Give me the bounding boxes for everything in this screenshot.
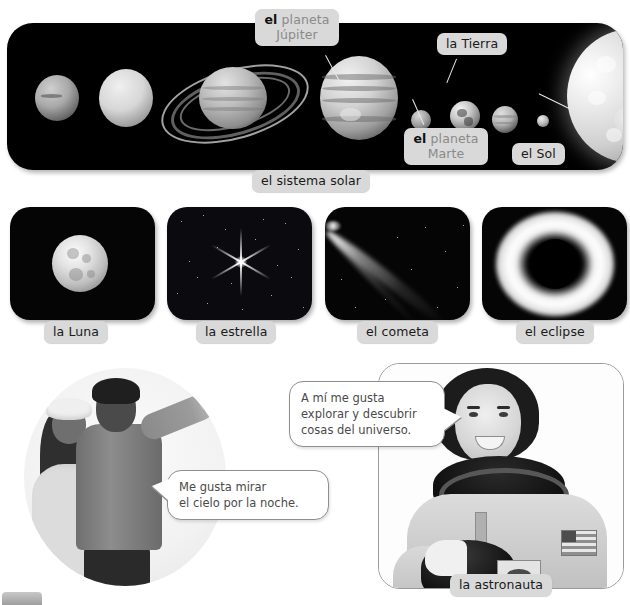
venus-band bbox=[494, 115, 517, 117]
the-sun bbox=[567, 29, 623, 163]
label-article: el bbox=[414, 131, 427, 146]
tile-la-estrella bbox=[167, 207, 312, 320]
star-core bbox=[235, 256, 247, 268]
venus-band bbox=[494, 122, 517, 124]
saturn-band bbox=[202, 107, 265, 111]
caption-text: el sistema solar bbox=[261, 173, 361, 188]
label-text: la Tierra bbox=[446, 36, 498, 51]
earth-continent bbox=[464, 117, 473, 126]
speech-line: cosas del universo. bbox=[301, 422, 433, 438]
tile-el-cometa bbox=[325, 207, 470, 320]
label-noun-line2: Júpiter bbox=[276, 27, 317, 42]
label-text: la astronauta bbox=[459, 577, 543, 592]
saturn-band bbox=[202, 86, 265, 90]
boy-jacket bbox=[76, 424, 162, 550]
astronaut-eyebrow bbox=[467, 406, 480, 409]
speech-bubble-tail bbox=[152, 479, 169, 501]
label-la-tierra: la Tierra bbox=[437, 33, 507, 55]
sun-granule bbox=[588, 91, 606, 106]
jupiter-band bbox=[322, 98, 395, 103]
speech-bubble-tail bbox=[443, 408, 461, 431]
eclipse-icon bbox=[531, 239, 579, 289]
label-noun-line2: Marte bbox=[428, 146, 465, 161]
astronaut-face bbox=[455, 384, 521, 464]
tile-la-luna bbox=[10, 207, 155, 320]
comet-head bbox=[325, 221, 341, 231]
label-planeta-jupiter: el planeta Júpiter bbox=[255, 9, 339, 46]
speech-line: explorar y descubrir bbox=[301, 406, 433, 422]
boy-cap bbox=[92, 378, 140, 404]
label-noun-line1: planeta bbox=[431, 131, 479, 146]
planet-uranus bbox=[99, 69, 153, 127]
saturn-band bbox=[202, 97, 265, 101]
astronaut-eye bbox=[499, 412, 508, 417]
tile-label-text: el eclipse bbox=[525, 324, 585, 339]
astronaut-eye bbox=[469, 412, 478, 417]
label-noun-line1: planeta bbox=[282, 12, 330, 27]
label-el-eclipse: el eclipse bbox=[516, 321, 594, 343]
girl-hat bbox=[46, 398, 92, 420]
label-la-estrella: la estrella bbox=[196, 321, 276, 343]
speech-bubble-kids: Me gusta mirar el cielo por la noche. bbox=[167, 470, 329, 520]
tile-label-text: la Luna bbox=[53, 324, 99, 339]
label-la-luna: la Luna bbox=[44, 321, 108, 343]
moon-icon bbox=[52, 235, 108, 292]
sun-granule bbox=[596, 56, 617, 73]
boy-pointing-hand bbox=[200, 394, 222, 412]
astronaut-helmet-highlight bbox=[425, 540, 467, 576]
planet-earth bbox=[450, 101, 480, 131]
speech-line: A mí me gusta bbox=[301, 390, 433, 406]
label-el-sol: el Sol bbox=[512, 143, 565, 165]
earth-continent bbox=[457, 109, 467, 117]
planet-venus bbox=[492, 106, 518, 133]
label-text: el Sol bbox=[521, 146, 556, 161]
label-el-cometa: el cometa bbox=[357, 321, 438, 343]
speech-line: Me gusta mirar bbox=[179, 479, 317, 495]
planet-mercury bbox=[537, 115, 549, 127]
label-article: el bbox=[265, 12, 278, 27]
comet-tail-main bbox=[325, 226, 449, 320]
astronaut-eyebrow bbox=[497, 406, 510, 409]
speech-line: el cielo por la noche. bbox=[179, 495, 317, 511]
planet-neptune bbox=[35, 75, 79, 121]
comet-icon bbox=[325, 211, 470, 320]
tile-label-text: la estrella bbox=[205, 324, 267, 339]
jupiter-band bbox=[322, 86, 395, 91]
speech-bubble-astronaut: A mí me gusta explorar y descubrir cosas… bbox=[289, 381, 445, 447]
jupiter-band bbox=[322, 74, 395, 79]
page-corner-tab bbox=[2, 592, 42, 605]
tile-el-eclipse bbox=[482, 207, 627, 320]
label-la-astronauta: la astronauta bbox=[450, 574, 552, 596]
boy-pants bbox=[84, 544, 150, 586]
jupiter-great-red-spot bbox=[340, 108, 360, 121]
caption-sistema-solar: el sistema solar bbox=[252, 170, 370, 192]
usa-flag-patch-icon bbox=[561, 530, 597, 556]
label-planeta-marte: el planeta Marte bbox=[404, 128, 488, 165]
planet-saturn bbox=[199, 67, 267, 129]
star-icon bbox=[211, 231, 271, 293]
tile-label-text: el cometa bbox=[366, 324, 429, 339]
